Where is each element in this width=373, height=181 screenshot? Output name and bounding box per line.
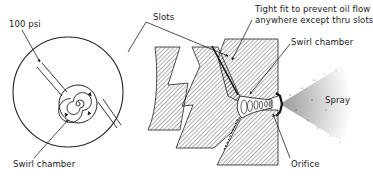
tight-fit-label-line2: anywhere except thru slots [255, 16, 373, 25]
nozzle-outline-circle [13, 37, 123, 147]
swirl-arrow-icon [65, 113, 67, 116]
spray-label: Spray [325, 96, 350, 105]
end-view [13, 30, 123, 158]
tight-fit-label-line1: Tight fit to prevent oil flow [255, 5, 370, 14]
inlet-slot-upper [37, 63, 67, 96]
swirl-arrow-icon [88, 112, 90, 115]
end-view-swirl-chamber-label: Swirl chamber [13, 160, 75, 169]
pressure-label: 100 psi [9, 20, 41, 29]
slots-label: Slots [153, 13, 174, 22]
section-swirl-chamber-label: Swirl chamber [291, 38, 353, 47]
slots-leader-left [128, 22, 146, 52]
inlet-slot-lower [98, 99, 121, 128]
spray-cone [280, 62, 352, 148]
plug-body-hatched [148, 47, 188, 130]
swirl-spiral [59, 93, 92, 123]
orifice-label: Orifice [291, 160, 320, 169]
